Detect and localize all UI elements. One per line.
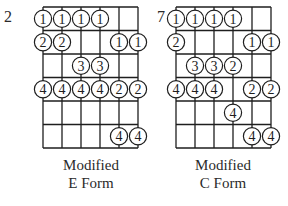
finger-dot: 1 (186, 10, 203, 27)
svg-text:1: 1 (230, 12, 237, 27)
svg-text:1: 1 (135, 35, 142, 50)
svg-text:1: 1 (40, 12, 47, 27)
svg-text:4: 4 (268, 129, 275, 144)
svg-text:1: 1 (249, 35, 256, 50)
svg-text:2: 2 (268, 82, 275, 97)
svg-text:1: 1 (78, 12, 85, 27)
svg-text:2: 2 (230, 59, 237, 74)
finger-dot: 2 (167, 34, 184, 51)
finger-dot: 3 (91, 57, 108, 74)
svg-text:4: 4 (230, 106, 237, 121)
finger-dot: 4 (167, 81, 184, 98)
svg-text:1: 1 (211, 12, 218, 27)
caption-e-form-line2: E Form (41, 174, 141, 192)
svg-text:2: 2 (40, 35, 47, 50)
svg-text:1: 1 (173, 12, 180, 27)
fretboard-e-form: 111122113344442244 (34, 7, 146, 148)
finger-dot: 4 (205, 81, 222, 98)
fretboard-c-form: 111121133244422444 (167, 7, 279, 148)
finger-dot: 2 (34, 34, 51, 51)
finger-dot: 3 (186, 57, 203, 74)
svg-text:2: 2 (135, 82, 142, 97)
svg-text:3: 3 (211, 59, 218, 74)
caption-c-form: Modified C Form (173, 156, 273, 192)
finger-dot: 4 (243, 128, 260, 145)
finger-dot: 4 (129, 128, 146, 145)
svg-text:4: 4 (211, 82, 218, 97)
svg-text:3: 3 (97, 59, 104, 74)
finger-dot: 1 (205, 10, 222, 27)
svg-text:2: 2 (173, 35, 180, 50)
finger-dot: 4 (34, 81, 51, 98)
svg-text:2: 2 (116, 82, 123, 97)
caption-c-form-line2: C Form (173, 174, 273, 192)
finger-dot: 2 (129, 81, 146, 98)
svg-text:4: 4 (249, 129, 256, 144)
svg-text:3: 3 (192, 59, 199, 74)
svg-text:4: 4 (116, 129, 123, 144)
finger-dot: 3 (72, 57, 89, 74)
finger-dot: 1 (262, 34, 279, 51)
finger-dot: 3 (205, 57, 222, 74)
svg-text:4: 4 (97, 82, 104, 97)
finger-dot: 4 (110, 128, 127, 145)
start-fret-label-c-form: 7 (157, 8, 165, 26)
finger-dot: 1 (72, 10, 89, 27)
finger-dot: 1 (91, 10, 108, 27)
svg-text:4: 4 (173, 82, 180, 97)
finger-dot: 1 (53, 10, 70, 27)
caption-c-form-line1: Modified (173, 156, 273, 174)
svg-text:4: 4 (192, 82, 199, 97)
finger-dot: 1 (34, 10, 51, 27)
finger-dot: 2 (243, 81, 260, 98)
finger-dot: 1 (129, 34, 146, 51)
finger-dot: 4 (91, 81, 108, 98)
svg-text:1: 1 (116, 35, 123, 50)
svg-text:4: 4 (135, 129, 142, 144)
finger-dot: 2 (224, 57, 241, 74)
svg-text:4: 4 (78, 82, 85, 97)
svg-text:1: 1 (59, 12, 66, 27)
svg-text:1: 1 (97, 12, 104, 27)
caption-e-form-line1: Modified (41, 156, 141, 174)
finger-dot: 4 (262, 128, 279, 145)
svg-text:4: 4 (40, 82, 47, 97)
finger-dot: 2 (53, 34, 70, 51)
svg-text:3: 3 (78, 59, 85, 74)
finger-dot: 1 (243, 34, 260, 51)
finger-dot: 2 (262, 81, 279, 98)
svg-text:2: 2 (249, 82, 256, 97)
finger-dot: 4 (224, 104, 241, 121)
finger-dot: 4 (72, 81, 89, 98)
caption-e-form: Modified E Form (41, 156, 141, 192)
svg-text:1: 1 (192, 12, 199, 27)
finger-dot: 1 (224, 10, 241, 27)
svg-text:2: 2 (59, 35, 66, 50)
finger-dot: 1 (110, 34, 127, 51)
svg-text:1: 1 (268, 35, 275, 50)
finger-dot: 4 (53, 81, 70, 98)
finger-dot: 2 (110, 81, 127, 98)
svg-text:4: 4 (59, 82, 66, 97)
finger-dot: 4 (186, 81, 203, 98)
start-fret-label-e-form: 2 (4, 8, 12, 26)
finger-dot: 1 (167, 10, 184, 27)
fretboard-diagrams: 111122113344442244111121133244422444 2 7… (0, 0, 288, 206)
